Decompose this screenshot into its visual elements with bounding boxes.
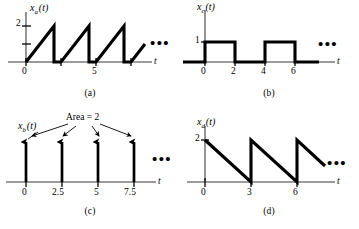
- signal-label-c: xc (t): [197, 1, 215, 15]
- x-tick-label-5: 5: [92, 66, 97, 76]
- y-tick-label-2: 2: [195, 133, 200, 143]
- ellipsis-icon: •••: [150, 36, 170, 51]
- x-tick-label-3: 3: [247, 187, 252, 197]
- panel-caption-d: (d): [179, 206, 359, 216]
- signal-label-a: xa (t): [30, 2, 48, 16]
- panel-caption-b: (b): [179, 88, 359, 98]
- panel-b: xc (t) 1 0 2 4 6 t ••• (b): [179, 0, 359, 114]
- waveform-sawtooth-rising: [26, 26, 145, 62]
- area-annotation: Area = 2: [66, 112, 99, 122]
- x-tick-label-0: 0: [201, 66, 206, 76]
- panel-d: xd (t) 2 0 3 6 t ••• (d): [179, 112, 359, 229]
- waveform-sawtooth-falling: [205, 140, 325, 182]
- leader-line-impulse-0: [32, 124, 68, 136]
- signals-figure: xa (t) 2 0 5 t ••• (a) xc (t) 1 0: [0, 0, 359, 229]
- x-axis-label: t: [158, 176, 161, 186]
- x-tick-label-5: 5: [94, 187, 99, 197]
- signal-label-d: xd (t): [197, 116, 215, 130]
- leader-line-impulse-2p5: [63, 126, 76, 136]
- x-tick-label-2p5: 2.5: [52, 187, 64, 197]
- leader-line-impulse-7p5: [100, 124, 131, 136]
- y-tick-label-1: 1: [195, 35, 200, 45]
- ellipsis-icon: •••: [152, 152, 172, 167]
- x-tick-label-7p5: 7.5: [124, 187, 136, 197]
- x-tick-label-0: 0: [22, 66, 27, 76]
- panel-caption-c: (c): [0, 206, 180, 216]
- x-tick-label-0: 0: [201, 187, 206, 197]
- x-tick-label-4: 4: [261, 66, 266, 76]
- panel-c: xb (t) Area = 2 0 2.5 5 7.5 t ••• (c): [0, 112, 180, 229]
- x-tick-label-6: 6: [291, 66, 296, 76]
- y-tick-label-2: 2: [16, 18, 21, 28]
- x-axis-label: t: [337, 56, 340, 66]
- ellipsis-icon: •••: [327, 156, 347, 171]
- panel-caption-a: (a): [0, 88, 180, 98]
- waveform-square: [183, 42, 319, 62]
- x-axis-label: t: [154, 56, 157, 66]
- x-axis-label: t: [337, 176, 340, 186]
- x-tick-label-2: 2: [231, 66, 236, 76]
- leader-line-impulse-5: [92, 126, 99, 136]
- signal-label-b: xb (t): [18, 120, 36, 134]
- x-tick-label-0: 0: [22, 187, 27, 197]
- x-tick-label-6: 6: [293, 187, 298, 197]
- ellipsis-icon: •••: [318, 37, 338, 52]
- panel-a: xa (t) 2 0 5 t ••• (a): [0, 0, 180, 114]
